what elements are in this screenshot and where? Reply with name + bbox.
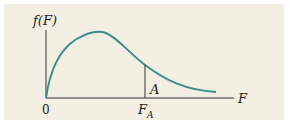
area-label: A [149, 82, 159, 97]
x-axis-label: F [237, 91, 248, 106]
y-axis-label: f(F) [32, 13, 57, 28]
critical-value-subscript: A [146, 110, 154, 120]
origin-label: 0 [42, 103, 50, 117]
density-curve [46, 32, 216, 98]
f-distribution-chart: f(F) F 0 A F A [0, 0, 290, 130]
